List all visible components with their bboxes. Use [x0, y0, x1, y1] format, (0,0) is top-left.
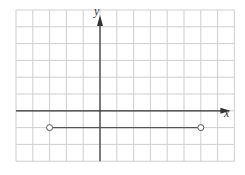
y-axis-label: y: [94, 4, 99, 19]
open-endpoint-icon: [47, 125, 53, 131]
chart-canvas: [0, 0, 245, 175]
x-axis-label: x: [224, 106, 229, 121]
open-endpoint-icon: [198, 125, 204, 131]
